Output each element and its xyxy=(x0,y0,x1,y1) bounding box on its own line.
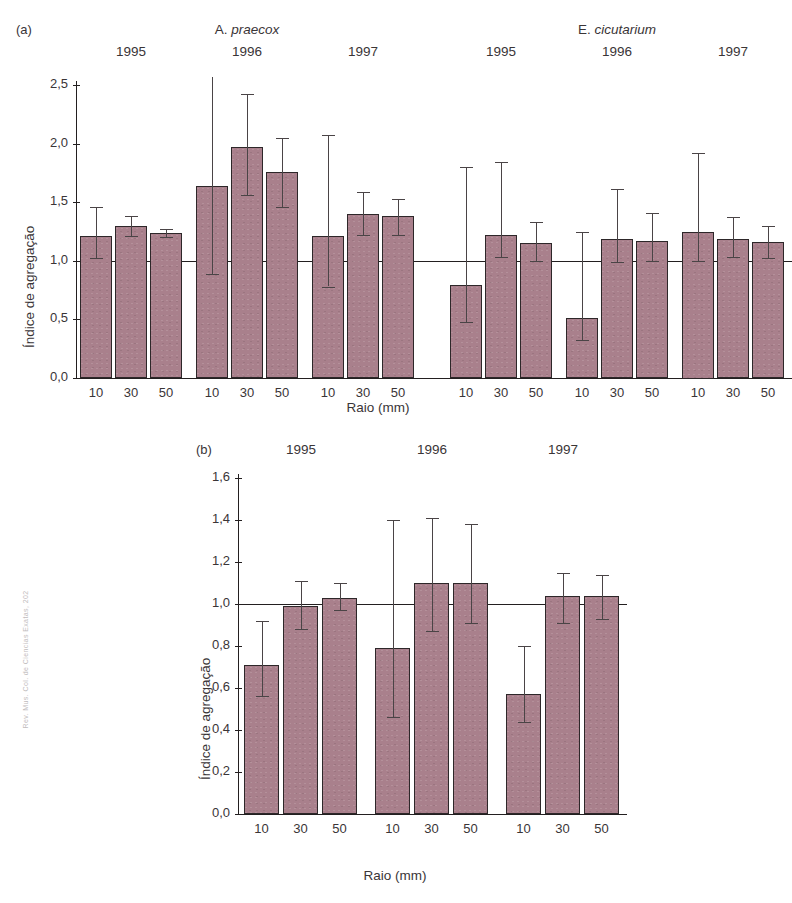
error-bar-cap-bottom xyxy=(90,258,103,259)
error-bar xyxy=(466,167,467,322)
error-bar xyxy=(733,217,734,257)
error-bar xyxy=(652,213,653,261)
error-bar xyxy=(471,524,472,623)
error-bar-cap-bottom xyxy=(460,322,473,323)
panel-a-y-axis-label: Índice de agregação xyxy=(22,226,37,348)
y-axis-tick xyxy=(235,814,242,815)
y-axis-tick xyxy=(73,144,80,145)
error-bar-cap-top xyxy=(426,518,439,519)
x-axis-tick-label: 50 xyxy=(143,385,189,400)
y-axis-tick xyxy=(73,378,80,379)
y-axis-tick-label: 0,0 xyxy=(186,805,230,820)
error-bar-cap-top xyxy=(241,94,254,95)
error-bar-cap-top xyxy=(276,138,289,139)
x-axis-tick-label: 50 xyxy=(745,385,791,400)
error-bar-cap-bottom xyxy=(557,623,570,624)
x-axis-tick-label: 50 xyxy=(629,385,675,400)
error-bar-cap-top xyxy=(322,135,335,136)
error-bar-cap-bottom xyxy=(160,237,173,238)
error-bar-cap-top xyxy=(495,162,508,163)
error-bar-cap-top xyxy=(557,573,570,574)
error-bar-cap-bottom xyxy=(596,619,609,620)
x-axis-tick-label: 50 xyxy=(513,385,559,400)
error-bar xyxy=(282,138,283,207)
error-bar xyxy=(398,199,399,235)
error-bar-cap-bottom xyxy=(276,207,289,208)
error-bar xyxy=(524,646,525,722)
error-bar xyxy=(363,192,364,235)
error-bar-cap-top xyxy=(518,646,531,647)
x-axis-tick-label: 50 xyxy=(446,821,495,836)
bar xyxy=(283,606,318,814)
error-bar-cap-bottom xyxy=(334,610,347,611)
error-bar-cap-top xyxy=(692,153,705,154)
error-bar-cap-top xyxy=(646,213,659,214)
error-bar-cap-top xyxy=(387,520,400,521)
error-bar xyxy=(768,226,769,259)
error-bar-cap-bottom xyxy=(495,257,508,258)
bar xyxy=(584,596,619,814)
error-bar xyxy=(131,216,132,236)
panel-a-x-axis-label: Raio (mm) xyxy=(278,400,478,415)
y-axis-tick-label: 1,2 xyxy=(186,553,230,568)
error-bar-cap-bottom xyxy=(322,287,335,288)
bar xyxy=(150,233,182,378)
y-axis-tick xyxy=(235,520,242,521)
error-bar-cap-top xyxy=(295,581,308,582)
error-bar xyxy=(212,77,213,274)
bar xyxy=(752,242,784,378)
y-axis-tick-label: 1,0 xyxy=(186,595,230,610)
error-bar xyxy=(501,162,502,257)
y-axis xyxy=(238,474,239,814)
error-bar-cap-top xyxy=(727,217,740,218)
error-bar xyxy=(301,581,302,629)
y-axis-tick xyxy=(73,85,80,86)
error-bar-cap-bottom xyxy=(357,235,370,236)
y-axis-tick xyxy=(235,646,242,647)
error-bar-cap-bottom xyxy=(727,257,740,258)
error-bar-cap-bottom xyxy=(576,340,589,341)
y-axis-tick xyxy=(235,478,242,479)
error-bar-cap-top xyxy=(160,229,173,230)
x-axis-tick-label: 50 xyxy=(577,821,626,836)
error-bar-cap-top xyxy=(125,216,138,217)
panel-b-x-axis-label: Raio (mm) xyxy=(315,868,475,883)
error-bar xyxy=(328,135,329,286)
bar xyxy=(382,216,414,378)
error-bar-cap-bottom xyxy=(387,717,400,718)
y-axis-tick xyxy=(235,772,242,773)
y-axis-tick-label: 1,4 xyxy=(186,511,230,526)
y-axis-tick xyxy=(235,730,242,731)
x-axis-tick-label: 50 xyxy=(259,385,305,400)
error-bar-cap-bottom xyxy=(692,261,705,262)
error-bar-cap-bottom xyxy=(256,696,269,697)
chart-panel-a: (a) A. praecoxE. cicutarium 199519961997… xyxy=(0,0,746,430)
bar xyxy=(520,243,552,378)
y-axis-tick xyxy=(73,319,80,320)
y-axis-tick xyxy=(235,562,242,563)
y-axis-tick-label: 2,0 xyxy=(24,135,68,150)
y-axis-tick-label: 1,5 xyxy=(24,193,68,208)
error-bar-cap-bottom xyxy=(426,631,439,632)
error-bar-cap-top xyxy=(392,199,405,200)
error-bar-cap-top xyxy=(530,222,543,223)
y-axis-tick-label: 1,6 xyxy=(186,469,230,484)
error-bar-cap-bottom xyxy=(465,623,478,624)
error-bar xyxy=(340,583,341,610)
error-bar-cap-bottom xyxy=(762,258,775,259)
x-axis-tick-label: 50 xyxy=(315,821,364,836)
error-bar-cap-top xyxy=(256,621,269,622)
bar xyxy=(545,596,580,814)
error-bar-cap-top xyxy=(596,575,609,576)
y-axis xyxy=(76,81,77,378)
panel-b-y-axis-label: Índice de agregação xyxy=(198,658,213,780)
error-bar-cap-top xyxy=(460,167,473,168)
error-bar-cap-bottom xyxy=(518,722,531,723)
error-bar xyxy=(96,207,97,259)
error-bar-cap-bottom xyxy=(125,236,138,237)
error-bar xyxy=(262,621,263,697)
y-axis-tick xyxy=(235,688,242,689)
error-bar-cap-bottom xyxy=(530,261,543,262)
error-bar xyxy=(536,222,537,261)
error-bar xyxy=(393,520,394,717)
